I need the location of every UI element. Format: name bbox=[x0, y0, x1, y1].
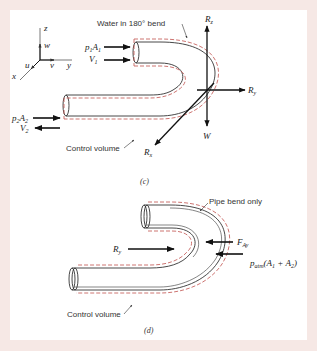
momentum-diagram: z w y v u x p1A1 V1 p2A2 V2 bbox=[0, 0, 317, 351]
water-bend-leader bbox=[182, 24, 187, 38]
ry-label-d: Ry bbox=[112, 244, 122, 255]
weight-label: W bbox=[203, 131, 212, 141]
water-bend-label: Water in 180° bend bbox=[97, 19, 165, 28]
control-volume-label-c: Control volume bbox=[66, 144, 120, 153]
pipe-bend-leader bbox=[200, 203, 208, 211]
inlet-velocity-label: V1 bbox=[89, 54, 98, 65]
axis-w-label: w bbox=[44, 40, 50, 50]
caption-c: (c) bbox=[140, 177, 149, 186]
axis-v-label: v bbox=[50, 60, 54, 70]
axis-x-label: x bbox=[11, 71, 16, 81]
axis-z-label: z bbox=[43, 23, 48, 33]
rx-label: Rx bbox=[143, 147, 153, 158]
inlet-pressure-label: p1A1 bbox=[84, 42, 101, 53]
outlet-velocity-label: V2 bbox=[20, 123, 29, 134]
pipe-c bbox=[63, 42, 215, 116]
caption-d: (d) bbox=[144, 326, 154, 335]
coordinate-axes-icon bbox=[20, 28, 72, 80]
rz-label: Rz bbox=[204, 14, 214, 25]
control-volume-leader-c bbox=[124, 140, 134, 148]
patm-label: patm(A1 + A2) bbox=[249, 258, 297, 269]
panel-d: Ry FAy patm(A1 + A2) Pipe bend only Cont… bbox=[67, 197, 297, 335]
control-volume-label-d: Control volume bbox=[67, 310, 121, 319]
control-volume-leader-d bbox=[124, 305, 132, 314]
pipe-d bbox=[69, 205, 225, 290]
axis-u-label: u bbox=[25, 60, 30, 70]
ry-label: Ry bbox=[247, 85, 257, 96]
panel-c: z w y v u x p1A1 V1 p2A2 V2 bbox=[11, 14, 257, 186]
control-volume-d bbox=[76, 202, 230, 293]
pipe-bend-only-label: Pipe bend only bbox=[209, 197, 262, 206]
fay-label: FAy bbox=[236, 237, 249, 248]
axis-y-label: y bbox=[66, 60, 71, 70]
